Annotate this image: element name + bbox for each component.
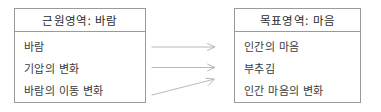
target-domain-item-3: 인간 마음의 변화 xyxy=(235,79,360,101)
mapping-arrow-1 xyxy=(152,44,215,51)
source-domain-item-3: 바람의 이동 변화 xyxy=(15,79,145,101)
metaphor-mapping-diagram: 근원영역: 바람 바람 기압의 변화 바람의 이동 변화 목표영역: 마음 인간… xyxy=(0,0,381,112)
mapping-arrow-3 xyxy=(152,78,215,95)
target-domain-header: 목표영역: 마음 xyxy=(235,9,360,32)
target-domain-item-2: 부추김 xyxy=(235,57,360,79)
target-domain-item-1: 인간의 마음 xyxy=(235,35,360,57)
source-domain-header: 근원영역: 바람 xyxy=(15,9,145,32)
mapping-arrow-2 xyxy=(152,64,215,71)
target-domain-item-list: 인간의 마음 부추김 인간 마음의 변화 xyxy=(235,32,360,103)
source-domain-box: 근원영역: 바람 바람 기압의 변화 바람의 이동 변화 xyxy=(14,8,146,103)
source-domain-item-2: 기압의 변화 xyxy=(15,57,145,79)
source-domain-item-1: 바람 xyxy=(15,35,145,57)
source-domain-item-list: 바람 기압의 변화 바람의 이동 변화 xyxy=(15,32,145,103)
target-domain-box: 목표영역: 마음 인간의 마음 부추김 인간 마음의 변화 xyxy=(234,8,361,103)
